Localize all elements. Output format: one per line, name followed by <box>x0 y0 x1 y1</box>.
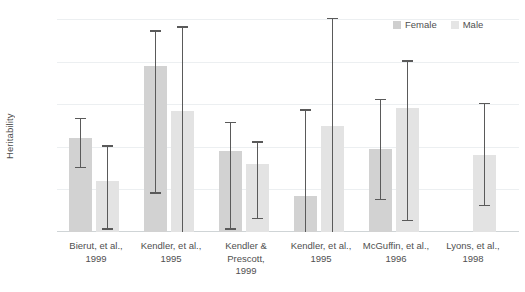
x-axis-label-line: Lyons, et al., <box>428 240 518 253</box>
error-bar-cap-upper <box>177 26 188 27</box>
legend: Female Male <box>393 19 483 30</box>
x-axis-label: Lyons, et al.,1998 <box>428 240 518 265</box>
legend-item-male[interactable]: Male <box>451 19 484 30</box>
error-bar-cap-upper <box>327 18 338 19</box>
legend-item-female[interactable]: Female <box>393 19 437 30</box>
x-axis-label-line: 1999 <box>201 265 291 278</box>
error-bar-line <box>230 123 231 230</box>
error-bar-cap-upper <box>252 141 263 142</box>
error-bar-cap-lower <box>479 205 490 206</box>
error-bar-cap-upper <box>150 30 161 31</box>
error-bar-line <box>182 28 183 232</box>
bar-group <box>291 19 353 232</box>
legend-swatch-female-icon <box>393 21 401 29</box>
legend-swatch-male-icon <box>451 21 459 29</box>
error-bar-line <box>155 32 156 194</box>
error-bar-cap-lower <box>225 228 236 229</box>
error-bar-cap-upper <box>225 122 236 123</box>
legend-label-female: Female <box>405 19 437 30</box>
bar-group <box>216 19 278 232</box>
bar-group <box>66 19 128 232</box>
legend-label-male: Male <box>463 19 484 30</box>
error-bar-cap-upper <box>102 145 113 146</box>
error-bar-cap-lower <box>75 167 86 168</box>
error-bar-line <box>107 147 108 230</box>
bar-groups <box>57 19 519 232</box>
error-bar-cap-lower <box>402 220 413 221</box>
error-bar-cap-lower <box>375 199 386 200</box>
error-bar-cap-upper <box>75 118 86 119</box>
plot-area <box>57 19 519 232</box>
error-bar-cap-upper <box>300 109 311 110</box>
error-bar-line <box>407 62 408 222</box>
error-bar-line <box>80 119 81 168</box>
x-axis-label-line: 1998 <box>428 253 518 266</box>
bar-group <box>141 19 203 232</box>
error-bar-line <box>257 143 258 220</box>
bar-group <box>443 19 505 232</box>
error-bar-cap-lower <box>102 228 113 229</box>
error-bar-cap-lower <box>150 192 161 193</box>
error-bar-cap-lower <box>252 218 263 219</box>
heritability-bar-chart: Heritability 0 20 40 60 80 100 Bierut, e… <box>0 0 525 292</box>
bar-group <box>366 19 428 232</box>
error-bar-cap-upper <box>479 103 490 104</box>
error-bar-cap-upper <box>375 99 386 100</box>
error-bar-line <box>332 19 333 232</box>
error-bar-cap-upper <box>402 60 413 61</box>
error-bar-line <box>305 111 306 232</box>
error-bar-line <box>380 100 381 200</box>
error-bar-line <box>484 104 485 206</box>
y-axis-title: Heritability <box>2 96 16 176</box>
